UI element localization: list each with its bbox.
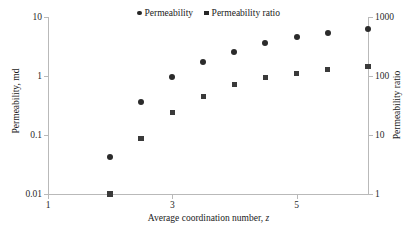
data-point-permeability — [231, 49, 237, 55]
legend-label-permeability: Permeability — [145, 8, 194, 18]
y-axis-left-tick-label: 1 — [0, 71, 42, 81]
y-axis-left-title: Permeability, md — [11, 56, 21, 146]
data-point-permeability-ratio — [138, 136, 144, 142]
y-axis-right-title: Permeability ratio — [392, 60, 402, 150]
y-axis-right-line — [368, 17, 369, 195]
y-axis-right-tick-label: 1 — [375, 189, 419, 199]
data-point-permeability — [169, 74, 175, 80]
data-point-permeability — [107, 154, 113, 160]
data-point-permeability — [262, 40, 268, 46]
legend-label-permeability-ratio: Permeability ratio — [212, 8, 280, 18]
y-axis-left-tick-label: 0.1 — [0, 130, 42, 140]
y-axis-left-tick — [44, 76, 48, 77]
chart-figure: Permeability Permeability ratio 1350.010… — [0, 0, 420, 233]
data-point-permeability-ratio — [294, 71, 300, 77]
x-axis-tick-label: 5 — [277, 200, 317, 210]
y-axis-left-tick-label: 0.01 — [0, 189, 42, 199]
y-axis-left-tick — [44, 17, 48, 18]
x-axis-tick — [297, 195, 298, 199]
data-point-permeability-ratio — [325, 67, 331, 73]
circle-marker-icon — [137, 11, 142, 16]
y-axis-right-tick — [369, 76, 373, 77]
square-marker-icon — [204, 11, 209, 16]
y-axis-left-tick — [44, 135, 48, 136]
data-point-permeability-ratio — [107, 191, 113, 197]
data-point-permeability-ratio — [170, 110, 176, 116]
x-axis-tick-label: 3 — [152, 200, 192, 210]
x-axis-title: Average coordination number, z — [48, 213, 369, 223]
y-axis-right-tick — [369, 194, 373, 195]
legend-item-permeability: Permeability — [137, 8, 193, 18]
y-axis-right-tick — [369, 135, 373, 136]
y-axis-right-tick — [369, 17, 373, 18]
data-point-permeability — [294, 34, 300, 40]
data-point-permeability — [365, 26, 371, 32]
data-point-permeability-ratio — [232, 82, 238, 88]
x-axis-tick-label: 1 — [28, 200, 68, 210]
y-axis-left-tick — [44, 194, 48, 195]
data-point-permeability — [200, 59, 206, 65]
data-point-permeability — [138, 99, 144, 105]
legend-item-permeability-ratio: Permeability ratio — [204, 8, 280, 18]
x-axis-tick — [48, 195, 49, 199]
y-axis-left-tick-label: 10 — [0, 12, 42, 22]
data-point-permeability-ratio — [263, 75, 269, 81]
x-axis-title-symbol: z — [265, 213, 269, 223]
data-point-permeability-ratio — [365, 64, 371, 70]
chart-legend: Permeability Permeability ratio — [48, 8, 369, 18]
y-axis-left-line — [48, 17, 49, 195]
data-point-permeability-ratio — [201, 94, 207, 100]
x-axis-title-text: Average coordination number, — [148, 213, 266, 223]
y-axis-right-tick-label: 1000 — [375, 12, 419, 22]
x-axis-line — [48, 194, 369, 195]
x-axis-tick — [172, 195, 173, 199]
data-point-permeability — [325, 30, 331, 36]
